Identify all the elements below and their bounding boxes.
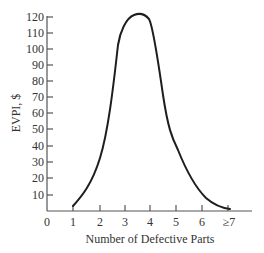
evpi-chart: 120 110 100 90 80 70 60 50 40 30 20 10 0… — [0, 0, 264, 253]
x-tick-label: ≥7 — [223, 215, 236, 229]
y-tick-label: 100 — [26, 42, 44, 56]
x-tick-label: 0 — [44, 215, 50, 229]
x-tick-label: 4 — [147, 215, 153, 229]
y-tick-label: 10 — [32, 188, 44, 202]
y-axis-title: EVPI, $ — [9, 94, 23, 133]
y-tick-label: 70 — [32, 90, 44, 104]
y-tick-labels: 120 110 100 90 80 70 60 50 40 30 20 10 — [26, 10, 44, 202]
x-tick-label: 1 — [70, 215, 76, 229]
y-tick-label: 80 — [32, 74, 44, 88]
y-tick-label: 60 — [32, 106, 44, 120]
x-ticks — [73, 205, 228, 211]
x-tick-label: 3 — [122, 215, 128, 229]
x-tick-label: 2 — [97, 215, 103, 229]
y-tick-label: 120 — [26, 10, 44, 24]
y-ticks — [47, 17, 53, 195]
x-axis-title: Number of Defective Parts — [86, 232, 215, 246]
x-tick-label: 5 — [173, 215, 179, 229]
y-tick-label: 30 — [32, 155, 44, 169]
y-tick-label: 50 — [32, 122, 44, 136]
x-tick-label: 6 — [199, 215, 205, 229]
y-tick-label: 20 — [32, 171, 44, 185]
y-tick-label: 90 — [32, 58, 44, 72]
y-tick-label: 110 — [26, 26, 44, 40]
x-tick-labels: 0 1 2 3 4 5 6 ≥7 — [44, 215, 235, 229]
evpi-curve — [73, 14, 230, 209]
y-tick-label: 40 — [32, 139, 44, 153]
